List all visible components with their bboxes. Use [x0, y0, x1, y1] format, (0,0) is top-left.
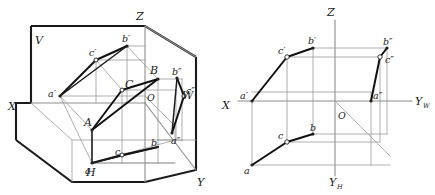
- frontal-triangle-edge-a-c: [60, 60, 96, 96]
- left-diagram: V H W X Z Y O A B C a′ b′ c′ a b c a″ b″…: [7, 10, 206, 189]
- point-marker-cprime-left: [94, 58, 98, 62]
- geometry-figure: V H W X Z Y O A B C a′ b′ c′ a b c a″ b″…: [0, 0, 435, 195]
- label-axis-yw-right: Y W: [415, 95, 431, 110]
- label-b-right: b: [310, 122, 316, 133]
- horizontal-triangle-edge-a-b: [92, 147, 158, 163]
- h-box-to-w-a: [60, 96, 92, 163]
- label-plane-v: V: [35, 34, 44, 47]
- label-adprime-right: a″: [373, 90, 383, 101]
- point-marker-a-left: [90, 161, 93, 164]
- label-axis-yh-right: Y H: [329, 176, 343, 191]
- label-aprime-left: a′: [48, 88, 57, 99]
- label-axis-z-left: Z: [135, 10, 144, 23]
- label-cprime-right: c′: [278, 45, 286, 56]
- label-bdprime-left: b″: [172, 66, 182, 77]
- label-axis-y-left: Y: [197, 176, 206, 189]
- right-frontal-edge-a-c: [252, 57, 287, 101]
- label-point-B-left: B: [149, 64, 158, 77]
- depth-line-c: [96, 60, 122, 90]
- label-bdprime-right: b″: [383, 36, 393, 47]
- point-marker-cdprime-right: [378, 55, 382, 59]
- point-marker-B-left: [156, 77, 159, 80]
- label-cdprime-right: c″: [385, 54, 394, 65]
- plane-outline-h: [16, 140, 145, 182]
- point-marker-bprime-left: [125, 44, 128, 47]
- point-marker-aprime-left: [58, 94, 61, 97]
- label-origin-left: O: [147, 92, 155, 103]
- label-bprime-right: b′: [308, 35, 317, 46]
- plane-outline-x-left: [16, 26, 31, 140]
- point-marker-c-right: [285, 140, 289, 144]
- label-c-left: c: [115, 146, 121, 157]
- label-cdprime-left: c″: [186, 85, 195, 96]
- label-aprime-right: a′: [240, 90, 249, 101]
- label-bprime-left: b′: [122, 33, 131, 44]
- point-marker-a-right: [250, 163, 253, 166]
- label-point-C-left: C: [125, 78, 134, 91]
- label-point-A-left: A: [83, 116, 92, 129]
- label-origin-right: O: [338, 110, 346, 121]
- fold-line-vw: [145, 26, 196, 57]
- label-b-left: b: [151, 137, 157, 148]
- label-cprime-left: c′: [89, 47, 97, 58]
- label-adprime-left: a″: [171, 135, 181, 146]
- label-axis-x-left: X: [7, 100, 17, 113]
- label-axis-x-right: X: [221, 99, 231, 112]
- right-horizontal-edge-c-b: [287, 134, 313, 142]
- left-diagram-canvas: V H W X Z Y O A B C a′ b′ c′ a b c a″ b″…: [0, 0, 435, 195]
- label-axis-z-right: Z: [326, 6, 335, 19]
- label-axis-yh-subscript: H: [336, 183, 343, 191]
- right-frontal-edge-c-b: [287, 48, 313, 57]
- label-a-left: a: [85, 165, 91, 176]
- label-a-right: a: [244, 165, 250, 176]
- right-diagram: X Z Y W Y H O a′ b′ c′ a″ b″ c″ a b c: [221, 6, 431, 191]
- point-marker-aprime-right: [250, 99, 253, 102]
- point-marker-c-left: [120, 153, 124, 157]
- right-horizontal-edge-a-c: [252, 142, 287, 165]
- label-c-right: c: [278, 130, 284, 141]
- point-marker-bprime-right: [311, 46, 314, 49]
- label-axis-yw-subscript: W: [423, 102, 431, 110]
- point-marker-C-left: [120, 88, 124, 92]
